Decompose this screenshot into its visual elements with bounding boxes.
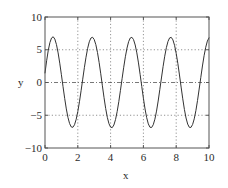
x-tick-label: 2 bbox=[68, 152, 88, 163]
y-tick-label: 0 bbox=[37, 77, 43, 88]
y-tick-label: 5 bbox=[37, 44, 43, 55]
x-tick-label: 10 bbox=[199, 152, 219, 163]
gridlines bbox=[45, 17, 209, 148]
y-tick-label: −5 bbox=[30, 110, 42, 121]
x-tick-label: 0 bbox=[35, 152, 55, 163]
x-axis-title: x bbox=[123, 170, 129, 181]
x-tick-label: 8 bbox=[166, 152, 186, 163]
figure-container: 10 5 0 −5 −10 0 2 4 6 8 10 y x bbox=[0, 0, 228, 188]
y-axis-title: y bbox=[18, 77, 24, 88]
x-tick-label: 4 bbox=[101, 152, 121, 163]
x-tick-label: 6 bbox=[133, 152, 153, 163]
y-tick-label: 10 bbox=[31, 12, 42, 23]
